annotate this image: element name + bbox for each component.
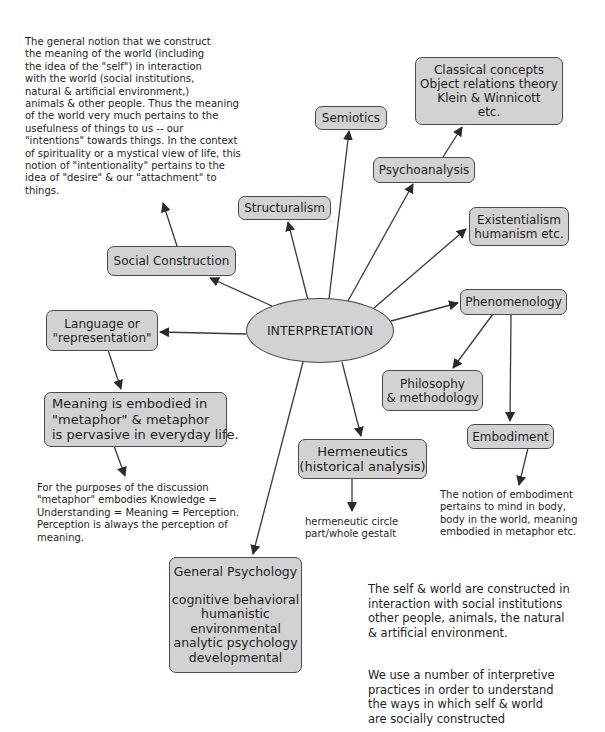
philosophy-node[interactable]: Philosophy & methodology bbox=[382, 370, 483, 411]
classical-concepts-node[interactable]: Classical concepts Object relations theo… bbox=[415, 57, 563, 125]
arrow-to-social-note bbox=[163, 203, 177, 246]
interpretation-label: INTERPRETATION bbox=[267, 323, 373, 338]
arrow-to-language bbox=[160, 332, 246, 334]
existentialism-node[interactable]: Existentialism humanism etc. bbox=[469, 207, 569, 246]
arrow-to-structuralism bbox=[288, 222, 308, 300]
embodiment-note: The notion of embodiment pertains to min… bbox=[440, 489, 578, 539]
meaning-node[interactable]: Meaning is embodied in "metaphor" & meta… bbox=[44, 392, 227, 447]
arrow-to-meaning bbox=[108, 350, 121, 389]
phenomenology-node[interactable]: Phenomenology bbox=[460, 289, 567, 315]
semiotics-node[interactable]: Semiotics bbox=[315, 106, 387, 130]
practices-note: We use a number of interpretive practice… bbox=[368, 668, 555, 726]
arrow-to-philosophy bbox=[453, 314, 493, 368]
arrow-to-hermeneutics bbox=[342, 362, 361, 436]
metaphor-note: For the purposes of the discussion "meta… bbox=[37, 482, 239, 544]
social-construction-node[interactable]: Social Construction bbox=[107, 246, 236, 276]
psychoanalysis-node[interactable]: Psychoanalysis bbox=[373, 157, 475, 183]
hermeneutics-node[interactable]: Hermeneutics (historical analysis) bbox=[298, 439, 427, 479]
social-construction-note: The general notion that we construct the… bbox=[25, 36, 241, 197]
arrow-to-classical bbox=[443, 127, 462, 157]
embodiment-node[interactable]: Embodiment bbox=[467, 424, 554, 449]
interpretation-node[interactable]: INTERPRETATION bbox=[246, 298, 394, 363]
arrow-to-embodiment bbox=[510, 314, 511, 421]
arrow-to-social-construction bbox=[210, 278, 272, 306]
arrow-to-metaphor-note bbox=[114, 446, 125, 476]
arrow-to-embodiment-note bbox=[519, 448, 528, 485]
arrow-to-phenomenology bbox=[391, 303, 458, 321]
arrow-to-general-psychology bbox=[253, 362, 303, 554]
arrow-to-existentialism bbox=[374, 229, 466, 308]
self-world-note: The self & world are constructed in inte… bbox=[368, 582, 570, 640]
structuralism-node[interactable]: Structuralism bbox=[238, 196, 331, 220]
arrow-to-semiotics bbox=[329, 131, 349, 299]
language-node[interactable]: Language or "representation" bbox=[46, 310, 158, 351]
general-psychology-node[interactable]: General Psychology cognitive behavioral … bbox=[169, 557, 302, 673]
hermeneutic-note: hermeneutic circle part/whole gestalt bbox=[305, 516, 398, 541]
